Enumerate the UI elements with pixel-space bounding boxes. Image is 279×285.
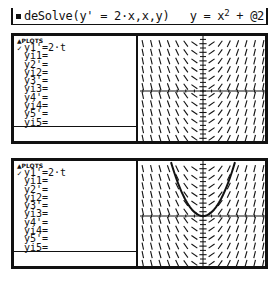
entry-underline xyxy=(13,24,266,25)
slope-field-graph[interactable] xyxy=(140,161,265,266)
equation-list: ✓y1'=2·t yi1= y2'= yi2= y3'= yi3= y4'= y… xyxy=(17,44,66,127)
equation-list: ✓y1'=2·t yi1= y2'= yi2= y3'= yi3= y4'= y… xyxy=(17,169,66,252)
entry-command: deSolve(y' = 2·x,x,y) xyxy=(24,9,169,23)
slope-field-graph[interactable] xyxy=(140,36,265,141)
home-entry-line[interactable]: deSolve(y' = 2·x,x,y) y = x2 + @2 xyxy=(11,8,268,25)
edit-line-input[interactable] xyxy=(14,251,136,266)
edit-line-input[interactable] xyxy=(14,126,136,141)
y-editor[interactable]: ▲PLOTS ✓y1'=2·t yi1= y2'= yi2= y3'= yi3=… xyxy=(14,36,138,141)
slope-field-plot xyxy=(140,36,265,141)
y-editor[interactable]: ▲PLOTS ✓y1'=2·t yi1= y2'= yi2= y3'= yi3=… xyxy=(14,161,138,266)
split-screen-1: ▲PLOTS ✓y1'=2·t yi1= y2'= yi2= y3'= yi3=… xyxy=(11,33,268,144)
split-screen-2: ▲PLOTS ✓y1'=2·t yi1= y2'= yi2= y3'= yi3=… xyxy=(11,158,268,269)
entry-bullet-icon xyxy=(16,14,21,19)
slope-field-plot xyxy=(140,161,265,266)
entry-result: y = x2 + @2 xyxy=(190,9,264,23)
